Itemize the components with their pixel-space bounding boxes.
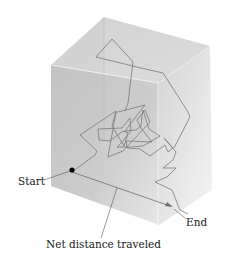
net-distance-label: Net distance traveled [46,239,161,250]
start-point-dot [69,167,74,172]
start-label: Start [18,176,45,187]
diffusion-random-walk-figure: Start End Net distance traveled [0,0,227,260]
end-label: End [186,217,207,228]
